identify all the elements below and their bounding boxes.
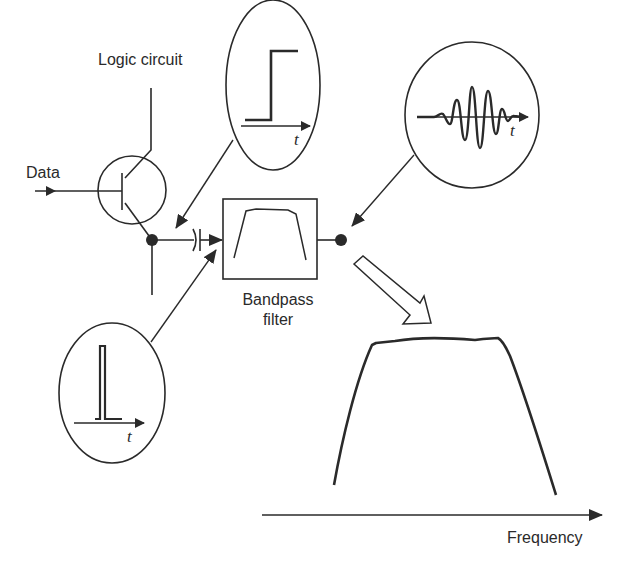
bandpass-label-line1: Bandpass — [228, 290, 328, 310]
transform-arrow-icon — [354, 256, 431, 324]
step-inset — [176, 0, 320, 228]
wavelet-pointer-line — [352, 155, 414, 226]
frequency-axis-label: Frequency — [507, 530, 583, 546]
output-dot — [335, 234, 347, 246]
junction-dot — [146, 234, 158, 246]
uwb-pulse-generation-diagram — [0, 0, 628, 571]
impulse-inset — [59, 250, 216, 463]
emitter-lead — [125, 203, 152, 240]
filter-response-icon — [234, 209, 306, 260]
bandpass-label-line2: filter — [228, 310, 328, 330]
logic-circuit-label: Logic circuit — [98, 52, 182, 68]
data-arrow-icon — [46, 186, 56, 196]
step-time-label: t — [294, 131, 299, 148]
wavelet-time-label: t — [510, 122, 515, 139]
impulse-waveform — [95, 346, 122, 419]
impulse-pointer-line — [151, 250, 216, 342]
step-pointer-line — [176, 140, 233, 228]
step-waveform — [245, 51, 298, 120]
spectrum-plot — [262, 338, 602, 515]
bandpass-filter-label: Bandpass filter — [228, 290, 328, 330]
impulse-time-label: t — [127, 428, 132, 445]
collector-lead — [125, 88, 151, 178]
bandpass-filter-block — [223, 199, 317, 279]
data-label: Data — [26, 165, 60, 181]
passband-curve — [334, 338, 556, 495]
